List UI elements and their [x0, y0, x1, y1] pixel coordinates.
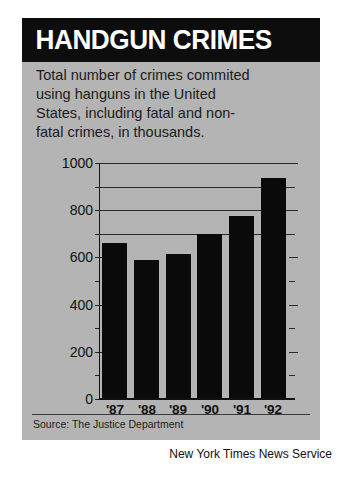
y-tick-label: 400 — [70, 297, 93, 313]
subtitle-line-4: fatal crimes, in thousands. — [36, 123, 308, 142]
source-divider — [32, 414, 310, 415]
y-tick-label: 0 — [85, 391, 93, 407]
subtitle-text: Total number of crimes commited using ha… — [36, 66, 308, 142]
title-banner: HANDGUN CRIMES — [22, 18, 320, 62]
y-tick-label: 1000 — [62, 155, 93, 171]
bar — [102, 243, 127, 399]
right-axis-ticks — [289, 163, 299, 399]
plot-area — [99, 163, 289, 399]
right-tick-minor — [289, 187, 295, 188]
right-tick-major — [289, 210, 298, 211]
right-tick-minor — [289, 234, 295, 235]
bar — [197, 234, 222, 399]
subtitle-line-3: States, including fatal and non- — [36, 104, 308, 123]
right-tick-minor — [289, 328, 295, 329]
y-axis-labels: 02004006008001000 — [22, 163, 93, 399]
gridline — [99, 163, 289, 164]
right-tick-major — [289, 352, 298, 353]
right-tick-major — [289, 257, 298, 258]
bar — [166, 254, 191, 399]
y-tick-label: 800 — [70, 202, 93, 218]
subtitle-line-1: Total number of crimes commited — [36, 66, 308, 85]
y-tick-label: 200 — [70, 344, 93, 360]
bar — [134, 260, 159, 399]
right-tick-major — [289, 305, 298, 306]
right-tick-major — [289, 163, 298, 164]
right-tick-minor — [289, 375, 295, 376]
bar — [261, 178, 286, 399]
x-axis-line — [99, 398, 295, 400]
y-tick-label: 600 — [70, 249, 93, 265]
subtitle-line-2: using hanguns in the United — [36, 85, 308, 104]
infographic-panel: HANDGUN CRIMES Total number of crimes co… — [22, 18, 320, 440]
bar-chart: 02004006008001000 '87'88'89'90'91'92 — [22, 158, 320, 398]
right-tick-minor — [289, 281, 295, 282]
bar — [229, 216, 254, 399]
credit-line: New York Times News Service — [0, 447, 332, 461]
page-title: HANDGUN CRIMES — [22, 25, 272, 56]
source-label: Source: The Justice Department — [33, 418, 183, 430]
